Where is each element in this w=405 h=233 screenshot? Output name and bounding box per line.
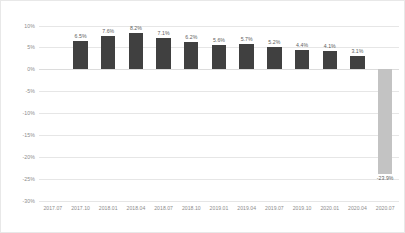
bar[interactable] xyxy=(184,42,198,69)
x-axis-tick-label: 2019.07 xyxy=(265,205,284,211)
x-axis-tick-label: 2018.07 xyxy=(154,205,173,211)
gridline-0% xyxy=(39,69,399,70)
y-axis-tick-label: 10% xyxy=(24,23,35,29)
x-axis-tick-label: 2019.01 xyxy=(210,205,229,211)
x-axis-tick-label: 2020.01 xyxy=(320,205,339,211)
bar-value-label: 6.2% xyxy=(185,34,197,40)
bar[interactable] xyxy=(323,51,337,69)
bar[interactable] xyxy=(267,47,281,70)
gridline--10% xyxy=(39,113,399,114)
gridline--25% xyxy=(39,179,399,180)
x-axis-tick-label: 2020.07 xyxy=(376,205,395,211)
x-axis-tick-label: 2018.01 xyxy=(99,205,118,211)
y-axis-tick-label: -30% xyxy=(22,198,35,204)
gridline--5% xyxy=(39,91,399,92)
bar-value-label: 7.1% xyxy=(158,30,170,36)
bar-value-label: -23.9% xyxy=(377,175,394,181)
bar[interactable] xyxy=(156,38,170,69)
bar-value-label: 5.2% xyxy=(268,39,280,45)
bar-value-label: 5.7% xyxy=(241,36,253,42)
x-axis-tick-label: 2020.04 xyxy=(348,205,367,211)
bar-value-label: 7.6% xyxy=(102,28,114,34)
y-axis-tick-label: -25% xyxy=(22,176,35,182)
bar-value-label: 4.4% xyxy=(296,42,308,48)
y-axis-tick-label: -10% xyxy=(22,110,35,116)
bar[interactable] xyxy=(73,41,87,69)
plot-area: 10%5%0%-5%-10%-15%-20%-25%-30%2017.07201… xyxy=(39,26,399,201)
x-axis-tick-label: 2018.10 xyxy=(182,205,201,211)
x-axis-tick-label: 2019.04 xyxy=(237,205,256,211)
y-axis-tick-label: -15% xyxy=(22,132,35,138)
y-axis-tick-label: -20% xyxy=(22,154,35,160)
bar-value-label: 3.1% xyxy=(351,48,363,54)
gridline-10% xyxy=(39,26,399,27)
bar-value-label: 4.1% xyxy=(324,43,336,49)
x-axis-tick-label: 2017.10 xyxy=(71,205,90,211)
bar[interactable] xyxy=(239,44,253,69)
x-axis-tick-label: 2018.04 xyxy=(127,205,146,211)
y-axis-tick-label: 0% xyxy=(27,66,35,72)
bar-value-label: 8.2% xyxy=(130,25,142,31)
y-axis-tick-label: -5% xyxy=(25,88,35,94)
bar[interactable] xyxy=(101,36,115,69)
x-axis-tick-label: 2017.07 xyxy=(43,205,62,211)
bar-value-label: 5.6% xyxy=(213,37,225,43)
bar-chart: 10%5%0%-5%-10%-15%-20%-25%-30%2017.07201… xyxy=(0,0,405,233)
y-axis-tick-label: 5% xyxy=(27,44,35,50)
gridline--20% xyxy=(39,157,399,158)
bar-value-label: 6.5% xyxy=(75,33,87,39)
x-axis-tick-label: 2019.10 xyxy=(293,205,312,211)
bar[interactable] xyxy=(378,69,392,174)
bar[interactable] xyxy=(295,50,309,69)
gridline--15% xyxy=(39,135,399,136)
bar[interactable] xyxy=(212,45,226,70)
bar[interactable] xyxy=(350,56,364,70)
gridline--30% xyxy=(39,201,399,202)
bar[interactable] xyxy=(129,33,143,69)
